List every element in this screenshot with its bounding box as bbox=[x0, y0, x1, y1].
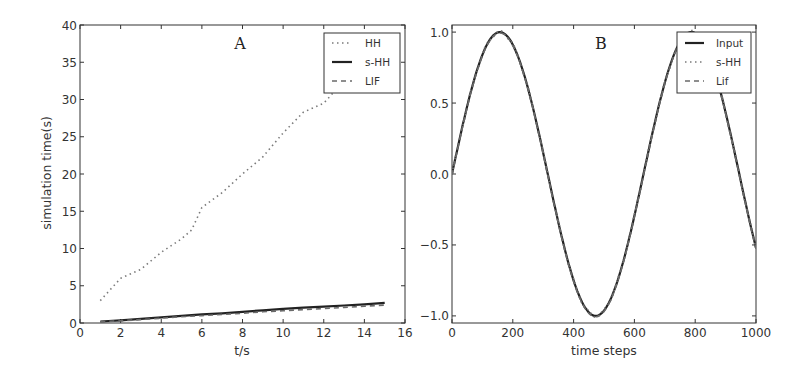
panel-b-x-tick-labels: 02004006008001000 bbox=[448, 326, 771, 340]
y-tick-label: −0.5 bbox=[420, 238, 449, 252]
y-tick-label: 1.0 bbox=[430, 26, 449, 40]
panel-b-legend: Input s-HH Lif bbox=[677, 32, 751, 93]
x-tick-label: 2 bbox=[117, 326, 125, 340]
panel-a-legend: HH s-HH LIF bbox=[324, 33, 400, 93]
y-tick-label: 5 bbox=[69, 279, 77, 293]
panel-b-y-tick-labels: −1.0−0.50.00.51.0 bbox=[420, 26, 449, 324]
x-tick-label: 14 bbox=[357, 326, 372, 340]
y-tick-label: 35 bbox=[62, 56, 77, 70]
panel-a: 0246810121416 0510152025303540 A t/s sim… bbox=[39, 19, 413, 359]
x-tick-label: 6 bbox=[198, 326, 206, 340]
y-tick-label: 0 bbox=[69, 317, 77, 331]
panel-a-x-tick-labels: 0246810121416 bbox=[76, 326, 412, 340]
x-tick-label: 400 bbox=[562, 326, 585, 340]
panel-a-xlabel: t/s bbox=[234, 343, 250, 358]
x-tick-label: 0 bbox=[448, 326, 456, 340]
legend-shh-label: s-HH bbox=[365, 56, 390, 68]
panel-b: 02004006008001000 −1.0−0.50.00.51.0 B ti… bbox=[420, 25, 771, 358]
x-tick-label: 800 bbox=[684, 326, 707, 340]
legend-hh-label: HH bbox=[365, 37, 381, 49]
y-tick-label: 30 bbox=[62, 93, 77, 107]
x-tick-label: 200 bbox=[501, 326, 524, 340]
y-tick-label: 15 bbox=[62, 205, 77, 219]
x-tick-label: 8 bbox=[239, 326, 247, 340]
x-tick-label: 16 bbox=[397, 326, 412, 340]
y-tick-label: 0.0 bbox=[430, 168, 449, 182]
x-tick-label: 1000 bbox=[741, 326, 772, 340]
x-tick-label: 10 bbox=[275, 326, 290, 340]
x-tick-label: 600 bbox=[623, 326, 646, 340]
x-tick-label: 12 bbox=[316, 326, 331, 340]
y-tick-label: 0.5 bbox=[430, 97, 449, 111]
y-tick-label: 10 bbox=[62, 242, 77, 256]
legend-shh-b-label: s-HH bbox=[716, 56, 741, 68]
legend-input-label: Input bbox=[716, 37, 743, 49]
legend-lif-label: LIF bbox=[365, 75, 380, 87]
figure: 0246810121416 0510152025303540 A t/s sim… bbox=[0, 0, 809, 379]
y-tick-label: −1.0 bbox=[420, 309, 449, 323]
legend-lif-b-label: Lif bbox=[716, 75, 729, 87]
y-tick-label: 40 bbox=[62, 19, 77, 33]
panel-b-title: B bbox=[595, 34, 607, 53]
y-tick-label: 25 bbox=[62, 130, 77, 144]
x-tick-label: 4 bbox=[157, 326, 165, 340]
x-tick-label: 0 bbox=[76, 326, 84, 340]
panel-b-xlabel: time steps bbox=[571, 343, 637, 358]
y-tick-label: 20 bbox=[62, 168, 77, 182]
panel-a-y-tick-labels: 0510152025303540 bbox=[62, 19, 77, 331]
panel-a-title: A bbox=[233, 34, 246, 53]
panel-a-ylabel: simulation time(s) bbox=[39, 116, 54, 230]
